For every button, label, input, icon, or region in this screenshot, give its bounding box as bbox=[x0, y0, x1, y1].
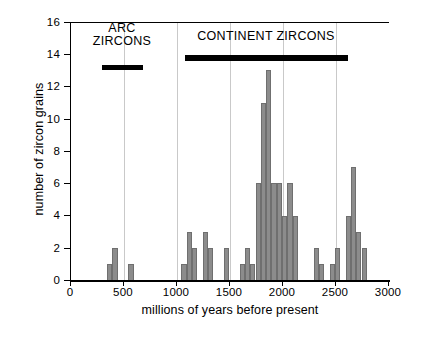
histogram-bars bbox=[70, 22, 388, 280]
arc-zircons-range-bar bbox=[102, 65, 143, 70]
y-tick-16 bbox=[64, 22, 70, 23]
x-axis-title: millions of years before present bbox=[70, 303, 390, 317]
x-tick-label-1000: 1000 bbox=[146, 286, 206, 298]
zircon-age-histogram-figure: 0 500 1000 1500 2000 2500 3000 0 2 4 6 8… bbox=[0, 0, 435, 337]
histogram-bar bbox=[362, 248, 367, 280]
x-tick-label-0: 0 bbox=[40, 286, 100, 298]
y-axis-title: number of zircon grains bbox=[32, 34, 46, 264]
histogram-bar bbox=[293, 216, 298, 281]
histogram-bar bbox=[192, 248, 197, 280]
y-tick-label-16: 16 bbox=[36, 16, 60, 28]
y-tick-8 bbox=[64, 151, 70, 152]
histogram-bar bbox=[208, 248, 213, 280]
histogram-bar bbox=[112, 248, 117, 280]
y-tick-6 bbox=[64, 183, 70, 184]
histogram-bar bbox=[335, 248, 340, 280]
y-tick-12 bbox=[64, 86, 70, 87]
x-tick-label-2000: 2000 bbox=[252, 286, 312, 298]
histogram-bar bbox=[128, 264, 133, 280]
x-tick-label-500: 500 bbox=[93, 286, 153, 298]
continent-zircons-label: CONTINENT ZIRCONS bbox=[186, 30, 346, 43]
arc-zircons-label: ARC ZIRCONS bbox=[82, 22, 162, 48]
y-tick-label-0: 0 bbox=[36, 274, 60, 286]
continent-zircons-range-bar bbox=[185, 55, 348, 61]
histogram-bar bbox=[319, 264, 324, 280]
y-tick-4 bbox=[64, 215, 70, 216]
x-tick-label-2500: 2500 bbox=[305, 286, 365, 298]
y-tick-0 bbox=[64, 280, 70, 281]
arc-zircons-label-line1: ARC bbox=[108, 21, 135, 35]
y-tick-2 bbox=[64, 248, 70, 249]
y-tick-10 bbox=[64, 119, 70, 120]
arc-zircons-label-line2: ZIRCONS bbox=[93, 34, 151, 48]
x-tick-label-3000: 3000 bbox=[358, 286, 418, 298]
histogram-bar bbox=[224, 248, 229, 280]
continent-zircons-label-line1: CONTINENT ZIRCONS bbox=[197, 29, 335, 43]
x-tick-label-1500: 1500 bbox=[199, 286, 259, 298]
y-tick-14 bbox=[64, 54, 70, 55]
